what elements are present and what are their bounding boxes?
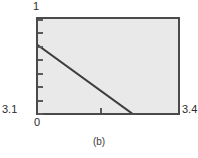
- line-series-curve: [38, 19, 178, 113]
- y-axis-tick-2: [38, 46, 43, 48]
- y-axis-tick-7: [38, 113, 43, 115]
- plot-area: [38, 19, 178, 113]
- figure-caption: (b): [0, 136, 198, 148]
- y-axis-tick-6: [38, 100, 43, 102]
- x-axis-min-label: 0: [34, 117, 40, 128]
- y-axis-min-label: 3.1: [2, 104, 17, 115]
- y-axis-tick-5: [38, 86, 43, 88]
- y-axis-tick-1: [38, 32, 43, 34]
- y-axis-tick-4: [38, 73, 43, 75]
- y-axis-tick-0: [38, 19, 43, 21]
- figure-panel: 1 3.1 0 3.4 (b): [0, 0, 198, 158]
- y-axis-max-label: 1: [33, 1, 39, 12]
- y-axis-tick-3: [38, 59, 43, 61]
- x-axis-tick-0: [100, 108, 102, 113]
- plot-frame: [36, 17, 180, 115]
- x-axis-max-label: 3.4: [182, 104, 197, 115]
